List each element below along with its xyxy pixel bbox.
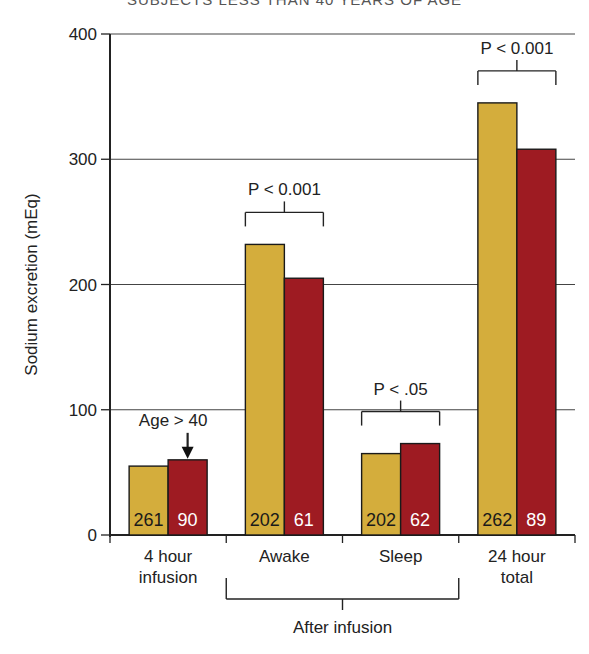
y-tick-label: 300	[69, 150, 97, 169]
bar-count-label: 202	[250, 510, 280, 530]
bar-count-label: 202	[366, 510, 396, 530]
y-tick-label: 200	[69, 276, 97, 295]
y-tick-label: 400	[69, 25, 97, 44]
bar-under-40	[245, 244, 284, 535]
bar-count-label: 262	[482, 510, 512, 530]
p-value-label: P < 0.001	[248, 180, 321, 199]
y-axis-label: Sodium excretion (mEq)	[22, 193, 41, 375]
x-category-label: Sleep	[379, 547, 422, 566]
y-tick-label: 0	[88, 526, 97, 545]
p-value-label: P < 0.001	[480, 39, 553, 58]
bar-count-label: 62	[410, 510, 430, 530]
x-category-label: infusion	[139, 568, 198, 587]
group-bracket-label: After infusion	[293, 618, 392, 637]
x-category-label: total	[501, 568, 533, 587]
bar-over-40	[284, 278, 323, 535]
bar-count-label: 261	[134, 510, 164, 530]
bar-under-40	[478, 103, 517, 535]
bar-count-label: 90	[178, 510, 198, 530]
annotation-age-label: Age > 40	[139, 411, 208, 430]
arrow-head-icon	[182, 447, 194, 459]
bar-count-label: 89	[526, 510, 546, 530]
bar-count-label: 61	[294, 510, 314, 530]
x-category-label: 4 hour	[144, 547, 193, 566]
bar-chart: 0100200300400Sodium excretion (mEq)26190…	[0, 0, 589, 654]
x-category-label: Awake	[259, 547, 310, 566]
y-tick-label: 100	[69, 401, 97, 420]
p-value-label: P < .05	[374, 380, 428, 399]
x-category-label: 24 hour	[488, 547, 546, 566]
bar-over-40	[517, 149, 556, 535]
